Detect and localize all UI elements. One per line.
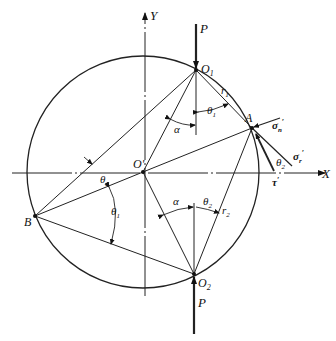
load-label-top: P (199, 21, 208, 36)
line-center-a (143, 128, 252, 172)
point-a (250, 126, 254, 130)
stress-diagram: Y X P P O1 O2 A B O' r1 r2 α θ1 α θ2 θ2 … (0, 0, 336, 341)
label-theta1-left: θ1 (111, 205, 120, 220)
label-alpha-top: α (174, 123, 180, 135)
label-sigma-r: σr′ (293, 149, 304, 165)
label-b: B (24, 215, 32, 229)
tick-arrow-left (84, 157, 92, 164)
x-axis-label: X (321, 166, 331, 181)
point-b (33, 214, 37, 218)
y-axis-label: Y (150, 8, 159, 23)
load-label-bottom: P (197, 295, 206, 310)
label-theta2-left: θ2 (100, 173, 109, 188)
label-o1: O1 (201, 62, 214, 78)
chord-o1-a (196, 70, 252, 128)
arc-alpha-bottom (163, 207, 193, 215)
label-theta1-top: θ1 (207, 104, 216, 119)
line-b-center (35, 172, 143, 216)
chord-o1-center (143, 70, 196, 172)
label-o2: O2 (198, 276, 211, 292)
label-theta2-bottom: θ2 (203, 195, 212, 210)
point-o2 (192, 272, 196, 276)
point-o1 (194, 68, 198, 72)
label-sigma-n: σn′ (272, 118, 284, 134)
label-center: O' (133, 157, 145, 171)
label-tau: τ′ (272, 176, 279, 188)
label-a: A (244, 111, 253, 125)
label-r2: r2 (222, 204, 230, 219)
label-alpha-bottom: α (173, 195, 179, 207)
